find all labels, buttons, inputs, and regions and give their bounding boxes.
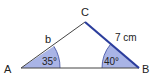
vertex-c-label: C <box>81 6 89 18</box>
vertex-a-label: A <box>4 63 12 74</box>
vertex-b-label: B <box>142 63 149 74</box>
angle-a-label: 35° <box>42 56 57 67</box>
side-b-label: b <box>45 33 51 45</box>
angle-b-label: 40° <box>104 56 119 67</box>
side-bc-label: 7 cm <box>115 32 137 43</box>
triangle-diagram: A B C b 7 cm 35° 40° <box>0 0 157 74</box>
